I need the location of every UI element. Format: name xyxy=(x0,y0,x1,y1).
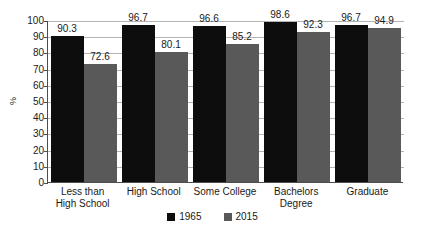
bar-2015-3[interactable]: 92.3 xyxy=(297,32,330,182)
y-axis-tick-label: 30 xyxy=(16,129,44,139)
bar-1965-4[interactable]: 96.7 xyxy=(335,25,368,182)
y-axis-tick-label: 100 xyxy=(16,16,44,26)
bar-groups: 90.372.696.780.196.685.298.692.396.794.9 xyxy=(48,21,403,182)
y-axis-tick-label: 20 xyxy=(16,146,44,156)
bar-value-label: 90.3 xyxy=(57,24,76,34)
bar-group: 96.794.9 xyxy=(332,21,403,182)
x-axis-label-line: Less than xyxy=(47,186,118,198)
bar-2015-4[interactable]: 94.9 xyxy=(368,28,401,182)
x-axis-label-2: Some College xyxy=(189,186,260,210)
bar-1965-2[interactable]: 96.6 xyxy=(193,26,226,182)
legend-swatch-icon xyxy=(224,213,232,221)
bar-value-label: 96.6 xyxy=(199,14,218,24)
x-axis-label-line: High School xyxy=(118,186,189,198)
y-axis-tickmark xyxy=(44,183,48,184)
bar-2015-0[interactable]: 72.6 xyxy=(84,64,117,182)
x-axis-label-4: Graduate xyxy=(332,186,403,210)
legend-label: 2015 xyxy=(236,212,258,222)
x-axis-label-1: High School xyxy=(118,186,189,210)
y-axis-tick-label: 10 xyxy=(16,162,44,172)
bar-1965-1[interactable]: 96.7 xyxy=(122,25,155,182)
bar-value-label: 96.7 xyxy=(341,13,360,23)
bar-group: 96.685.2 xyxy=(190,21,261,182)
y-axis-tick-label: 70 xyxy=(16,65,44,75)
bar-2015-1[interactable]: 80.1 xyxy=(155,52,188,182)
y-axis-tick-label: 40 xyxy=(16,113,44,123)
bar-value-label: 96.7 xyxy=(128,13,147,23)
bar-value-label: 85.2 xyxy=(232,32,251,42)
y-axis-tick-label: 90 xyxy=(16,32,44,42)
legend-label: 1965 xyxy=(179,212,201,222)
bar-value-label: 80.1 xyxy=(161,40,180,50)
y-axis-tick-label: 80 xyxy=(16,48,44,58)
y-axis-tick-label: 0 xyxy=(16,178,44,188)
bar-1965-0[interactable]: 90.3 xyxy=(51,36,84,182)
legend-swatch-icon xyxy=(167,213,175,221)
bar-group: 96.780.1 xyxy=(119,21,190,182)
bar-2015-2[interactable]: 85.2 xyxy=(226,44,259,182)
y-axis-tick-labels: 1009080706050403020100 xyxy=(12,0,44,234)
x-axis-label-line: Graduate xyxy=(332,186,403,198)
x-axis-category-labels: Less thanHigh SchoolHigh SchoolSome Coll… xyxy=(47,186,403,210)
x-axis-label-3: Bachelors Degree xyxy=(261,186,332,210)
legend-item-1965[interactable]: 1965 xyxy=(167,212,201,222)
x-axis-label-0: Less thanHigh School xyxy=(47,186,118,210)
chart-legend: 19652015 xyxy=(0,212,425,222)
bar-value-label: 92.3 xyxy=(303,20,322,30)
x-axis-label-line: High School xyxy=(47,198,118,210)
bar-group: 90.372.6 xyxy=(48,21,119,182)
bar-1965-3[interactable]: 98.6 xyxy=(264,22,297,182)
x-axis-label-line: Bachelors Degree xyxy=(261,186,332,210)
bar-group: 98.692.3 xyxy=(261,21,332,182)
x-axis-label-line: Some College xyxy=(189,186,260,198)
bar-value-label: 98.6 xyxy=(270,10,289,20)
plot-area: 90.372.696.780.196.685.298.692.396.794.9 xyxy=(47,21,403,183)
bar-value-label: 94.9 xyxy=(374,16,393,26)
bar-chart: % 1009080706050403020100 90.372.696.780.… xyxy=(0,0,425,234)
y-axis-tick-label: 60 xyxy=(16,81,44,91)
legend-item-2015[interactable]: 2015 xyxy=(224,212,258,222)
bar-value-label: 72.6 xyxy=(90,52,109,62)
y-axis-tick-label: 50 xyxy=(16,97,44,107)
